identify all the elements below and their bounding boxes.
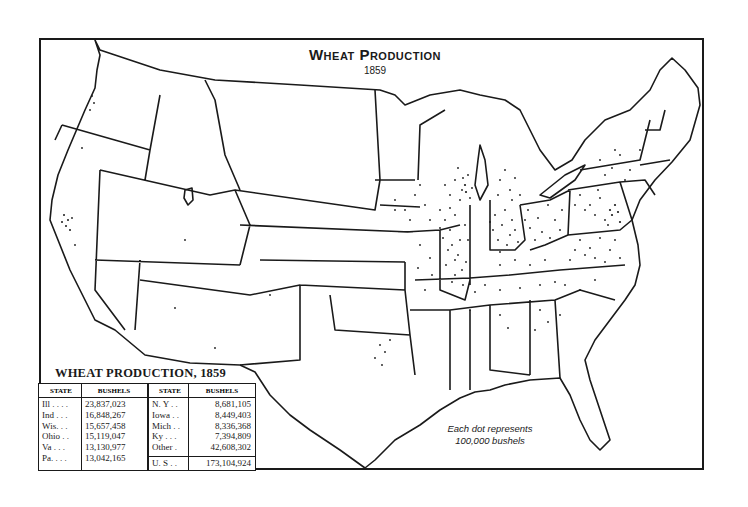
table-title: WHEAT PRODUCTION, 1859 xyxy=(55,366,226,381)
legend-line-2: 100,000 bushels xyxy=(415,435,565,447)
bushels-value: 13,042,165 xyxy=(85,453,126,464)
table-row: Va . . .13,130,977 xyxy=(39,442,147,453)
bushels-value: 8,681,105 xyxy=(215,399,251,410)
dot-legend: Each dot represents 100,000 bushels xyxy=(415,423,565,447)
table-rows-left: Ill . . . .23,837,023 Ind . . .16,848,26… xyxy=(39,399,147,464)
table-row: Iowa . .8,449,403 xyxy=(149,410,255,421)
table-header-left: STATE BUSHELS xyxy=(39,384,147,398)
bushels-value: 8,336,368 xyxy=(215,421,251,432)
dots-pennsylvania xyxy=(574,189,621,226)
state-name: Mich . . xyxy=(152,421,180,432)
state-name: Va . . . xyxy=(42,442,65,453)
state-name: Iowa . . xyxy=(152,410,179,421)
state-name: Ohio . . xyxy=(42,431,69,442)
table-right-half: STATE BUSHELS N. Y . .8,681,105 Iowa . .… xyxy=(149,384,255,470)
table-row: Ind . . .16,848,267 xyxy=(39,410,147,421)
dots-wisconsin xyxy=(444,167,473,201)
dots-west xyxy=(81,95,396,349)
wheat-dots xyxy=(61,95,641,366)
bushels-value: 16,848,267 xyxy=(85,410,126,421)
state-name: Other . xyxy=(152,442,177,453)
header-bushels: BUSHELS xyxy=(84,387,144,395)
total-label: U. S . . xyxy=(152,458,177,469)
table-row: Wis. . .15,657,458 xyxy=(39,421,147,432)
state-borders xyxy=(55,80,670,390)
lake-michigan xyxy=(475,145,488,200)
total-value: 173,104,924 xyxy=(206,458,251,469)
production-table: STATE BUSHELS Ill . . . .23,837,023 Ind … xyxy=(38,383,256,471)
bushels-value: 42,608,302 xyxy=(211,442,252,453)
bushels-value: 15,657,458 xyxy=(85,421,126,432)
table-row: Ky . . .7,394,809 xyxy=(149,431,255,442)
dots-indiana xyxy=(489,209,519,253)
legend-line-1: Each dot represents xyxy=(415,423,565,435)
state-name: Ky . . . xyxy=(152,431,177,442)
bushels-value: 15,119,047 xyxy=(85,431,125,442)
state-name: Ind . . . xyxy=(42,410,68,421)
map-year: 1859 xyxy=(340,65,410,76)
header-bushels: BUSHELS xyxy=(191,387,253,395)
header-state: STATE xyxy=(152,387,188,395)
dots-michigan xyxy=(497,169,521,201)
table-row: N. Y . .8,681,105 xyxy=(149,399,255,410)
state-name: Ill . . . . xyxy=(42,399,68,410)
state-name: N. Y . . xyxy=(152,399,178,410)
table-row: Ill . . . .23,837,023 xyxy=(39,399,147,410)
dots-iowa xyxy=(394,184,431,221)
state-name: Wis. . . xyxy=(42,421,67,432)
header-state: STATE xyxy=(42,387,80,395)
dots-missouri xyxy=(417,244,433,291)
dots-california xyxy=(61,214,76,246)
map-title: Wheat Production xyxy=(250,46,500,63)
bushels-value: 8,449,403 xyxy=(215,410,251,421)
bushels-value: 13,130,977 xyxy=(85,442,126,453)
total-row: U. S . .173,104,924 xyxy=(149,458,255,469)
table-left-half: STATE BUSHELS Ill . . . .23,837,023 Ind … xyxy=(39,384,149,470)
table-row: Other .42,608,302 xyxy=(149,442,255,453)
table-row: Ohio . .15,119,047 xyxy=(39,431,147,442)
dots-virginia xyxy=(569,237,621,263)
bushels-value: 23,837,023 xyxy=(85,399,126,410)
table-header-right: STATE BUSHELS xyxy=(149,384,255,398)
dots-illinois xyxy=(439,207,469,286)
state-name: Pa. . . . xyxy=(42,453,67,464)
bushels-value: 7,394,809 xyxy=(215,431,251,442)
table-row: Pa. . . .13,042,165 xyxy=(39,453,147,464)
table-rows-right: N. Y . .8,681,105 Iowa . .8,449,403 Mich… xyxy=(149,399,255,453)
total-divider xyxy=(149,456,255,457)
dots-texas xyxy=(374,339,391,366)
table-row: Mich . .8,336,368 xyxy=(149,421,255,432)
dots-ohio xyxy=(524,204,563,241)
table-total: U. S . .173,104,924 xyxy=(149,458,255,469)
